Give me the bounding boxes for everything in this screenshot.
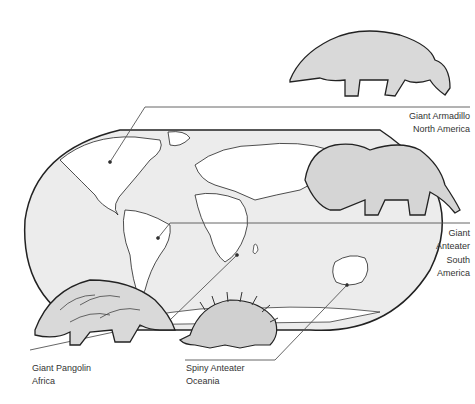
world-map-diagram — [0, 0, 475, 404]
australia — [333, 256, 368, 285]
region-name-line2: America — [410, 267, 470, 280]
species-name: Spiny Anteater — [186, 362, 306, 375]
label-giant-pangolin: Giant Pangolin Africa — [32, 362, 152, 388]
species-name-line2: Anteater — [410, 240, 470, 253]
region-name-line1: South — [410, 254, 470, 267]
species-name: Giant Pangolin — [32, 362, 152, 375]
label-giant-anteater: Giant Anteater South America — [410, 227, 470, 280]
label-giant-armadillo: Giant Armadillo North America — [340, 110, 470, 136]
region-name: Africa — [32, 375, 152, 388]
region-name: Oceania — [186, 375, 306, 388]
label-spiny-anteater: Spiny Anteater Oceania — [186, 362, 306, 388]
species-name-line1: Giant — [410, 227, 470, 240]
giant-armadillo-illustration — [290, 31, 450, 96]
region-name: North America — [340, 123, 470, 136]
species-name: Giant Armadillo — [340, 110, 470, 123]
